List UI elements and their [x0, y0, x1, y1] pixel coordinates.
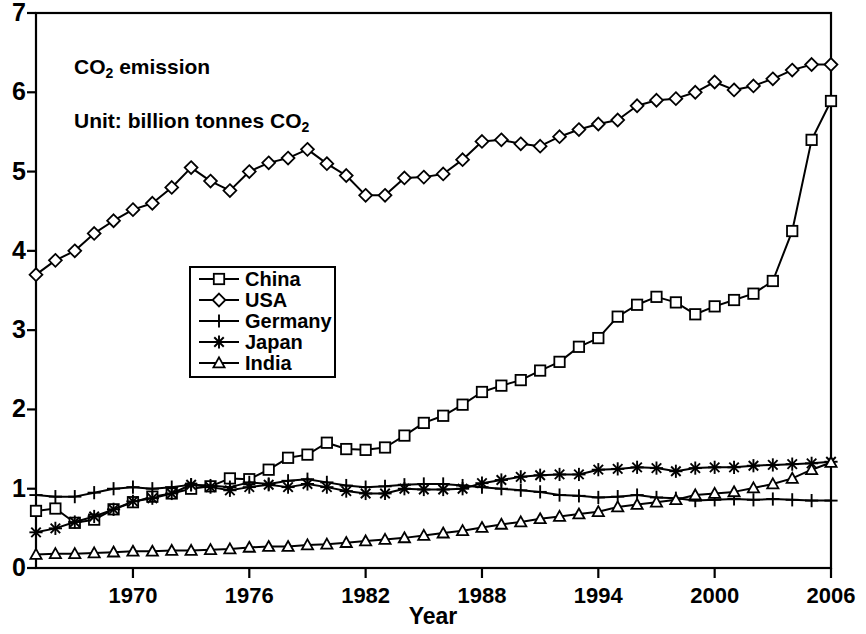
chart-legend: ChinaUSAGermanyJapanIndia [189, 266, 336, 378]
data-point-asterisk [417, 483, 430, 496]
chart-figure: 01234567 1970197619821988199420002006 Ye… [0, 0, 866, 634]
data-point-asterisk [553, 468, 566, 481]
data-point-diamond [689, 86, 702, 99]
data-point-asterisk [398, 482, 411, 495]
data-point-diamond [282, 152, 295, 165]
x-tick-label: 2006 [786, 585, 866, 607]
data-point-square [360, 445, 370, 455]
data-point-diamond [708, 76, 721, 89]
data-point-asterisk [185, 478, 198, 491]
data-point-plus [68, 490, 81, 503]
data-point-square [322, 438, 332, 448]
y-tick-label: 7 [0, 0, 26, 25]
data-point-square [516, 375, 526, 385]
data-point-asterisk [592, 463, 605, 476]
data-point-asterisk [212, 335, 225, 348]
data-point-square [341, 444, 351, 454]
data-point-diamond [553, 130, 566, 143]
y-tick-label: 0 [0, 555, 26, 580]
x-tick-label: 2000 [670, 585, 760, 607]
legend-marker-plus-icon [197, 311, 241, 331]
data-point-square [787, 226, 797, 236]
data-point-square [477, 387, 487, 397]
legend-label: USA [245, 290, 287, 310]
data-point-asterisk [107, 503, 120, 516]
data-point-asterisk [301, 477, 314, 490]
data-point-asterisk [340, 484, 353, 497]
data-point-square [283, 453, 293, 463]
data-point-asterisk [456, 482, 469, 495]
data-point-diamond [728, 84, 741, 97]
data-point-asterisk [437, 483, 450, 496]
data-point-asterisk [320, 481, 333, 494]
data-point-asterisk [534, 469, 547, 482]
data-point-square [214, 273, 224, 283]
legend-marker-triangle-icon [197, 353, 241, 373]
data-point-diamond [573, 123, 586, 136]
data-point-diamond [262, 156, 275, 169]
data-point-diamond [213, 293, 226, 306]
data-point-square [438, 411, 448, 421]
data-point-asterisk [262, 478, 275, 491]
data-point-asterisk [650, 462, 663, 475]
data-point-square [554, 357, 564, 367]
data-point-asterisk [630, 461, 643, 474]
data-point-square [50, 503, 60, 513]
data-point-plus [824, 494, 837, 507]
data-point-square [632, 300, 642, 310]
legend-item-china: China [191, 268, 334, 289]
legend-item-india: India [191, 352, 334, 373]
series-india [30, 457, 836, 559]
data-point-plus [107, 482, 120, 495]
data-point-diamond [805, 58, 818, 71]
data-point-asterisk [689, 462, 702, 475]
x-tick-label: 1982 [321, 585, 411, 607]
x-tick-label: 1970 [88, 585, 178, 607]
y-tick-label: 1 [0, 476, 26, 501]
data-point-square [593, 333, 603, 343]
x-tick-label: 1994 [553, 585, 643, 607]
data-point-plus [766, 492, 779, 505]
data-point-diamond [127, 203, 140, 216]
data-point-plus [786, 493, 799, 506]
legend-label: Germany [245, 311, 332, 331]
data-point-square [671, 297, 681, 307]
data-point-plus [747, 493, 760, 506]
data-point-asterisk [495, 473, 508, 486]
data-point-square [806, 135, 816, 145]
data-point-diamond [786, 64, 799, 77]
data-point-asterisk [359, 487, 372, 500]
data-point-asterisk [514, 470, 527, 483]
series-usa [30, 58, 838, 281]
data-point-diamond [534, 140, 547, 153]
legend-item-usa: USA [191, 289, 334, 310]
data-point-diamond [650, 94, 663, 107]
y-tick-label: 2 [0, 396, 26, 421]
y-tick-label: 5 [0, 159, 26, 184]
data-point-asterisk [88, 510, 101, 523]
chart-plot-area [0, 0, 866, 634]
data-point-asterisk [146, 492, 159, 505]
data-point-asterisk [572, 468, 585, 481]
data-point-plus [534, 485, 547, 498]
data-point-asterisk [786, 458, 799, 471]
annotation-unit: Unit: billion tonnes CO2 [74, 110, 309, 131]
data-point-square [709, 301, 719, 311]
data-point-plus [553, 488, 566, 501]
data-point-asterisk [378, 487, 391, 500]
data-point-asterisk [223, 484, 236, 497]
data-point-square [651, 292, 661, 302]
data-point-square [263, 464, 273, 474]
legend-label: India [245, 353, 292, 373]
data-point-plus [514, 484, 527, 497]
data-point-asterisk [708, 461, 721, 474]
y-tick-label: 3 [0, 317, 26, 342]
data-point-asterisk [727, 461, 740, 474]
data-point-square [399, 430, 409, 440]
series-line [36, 463, 831, 555]
annotation-co2-emission: CO2 emission [74, 56, 210, 77]
data-point-square [613, 311, 623, 321]
data-point-diamond [825, 58, 838, 71]
data-point-asterisk [747, 459, 760, 472]
data-point-diamond [417, 171, 430, 184]
